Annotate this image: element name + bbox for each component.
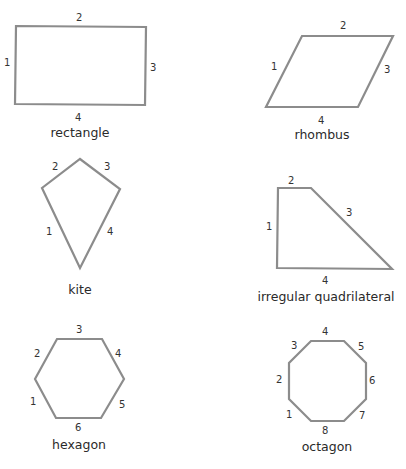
shape-label: rectangle (50, 125, 109, 140)
side-label-1: 1 (271, 61, 277, 72)
shape-label: hexagon (52, 437, 106, 452)
kite-figure: 2 3 1 4 kite (42, 159, 120, 297)
side-label-4: 4 (322, 275, 328, 286)
irregular-quadrilateral-figure: 2 1 3 4 irregular quadrilateral (257, 175, 394, 304)
side-label-2: 2 (52, 161, 58, 172)
rhombus-shape (266, 36, 393, 107)
side-label-3: 3 (104, 161, 110, 172)
side-label-4: 4 (107, 226, 113, 237)
side-label-4: 4 (75, 112, 81, 123)
side-label-4: 4 (115, 348, 121, 359)
shape-label: octagon (302, 439, 353, 454)
side-label-5: 5 (358, 341, 364, 352)
side-label-2: 2 (276, 374, 282, 385)
side-label-1: 1 (4, 57, 10, 68)
side-label-6: 6 (369, 375, 375, 386)
octagon-shape (289, 341, 366, 421)
side-label-5: 5 (119, 399, 125, 410)
side-label-3: 3 (76, 324, 82, 335)
hexagon-shape (35, 339, 124, 418)
side-label-1: 1 (30, 396, 36, 407)
quadrilateral-polygon-diagram: 1 2 3 4 rectangle 1 2 3 4 rhombus 2 3 1 … (0, 0, 406, 469)
side-label-6: 6 (75, 422, 81, 433)
rhombus-figure: 1 2 3 4 rhombus (266, 20, 393, 142)
shape-label: kite (68, 282, 92, 297)
side-label-8: 8 (322, 425, 328, 436)
side-label-2: 2 (340, 20, 346, 31)
side-label-2: 2 (288, 175, 294, 186)
side-label-1: 1 (266, 221, 272, 232)
side-label-3: 3 (150, 62, 156, 73)
side-label-4: 4 (318, 115, 324, 126)
shape-label: rhombus (294, 127, 349, 142)
side-label-1: 1 (46, 226, 52, 237)
rectangle-figure: 1 2 3 4 rectangle (4, 12, 156, 140)
hexagon-figure: 3 2 4 1 5 6 hexagon (30, 324, 125, 452)
side-label-3: 3 (291, 340, 297, 351)
side-label-4: 4 (322, 326, 328, 337)
side-label-1: 1 (286, 409, 292, 420)
rectangle-shape (15, 26, 146, 105)
irregular-quadrilateral-shape (277, 188, 392, 269)
octagon-figure: 4 3 5 2 6 1 7 8 octagon (276, 326, 375, 454)
side-label-7: 7 (359, 410, 365, 421)
shape-label: irregular quadrilateral (257, 289, 394, 304)
side-label-3: 3 (384, 64, 390, 75)
kite-shape (42, 159, 120, 268)
side-label-3: 3 (346, 207, 352, 218)
side-label-2: 2 (76, 12, 82, 23)
side-label-2: 2 (34, 348, 40, 359)
